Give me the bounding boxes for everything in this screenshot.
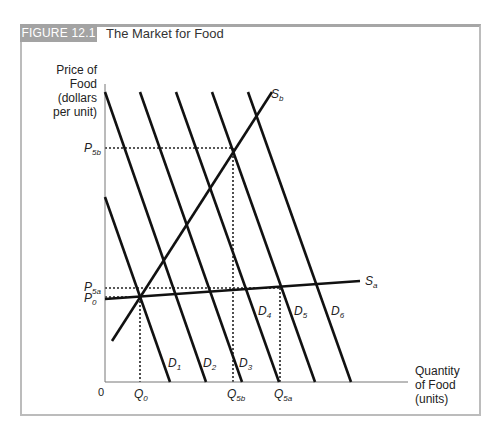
- label-D1: D1: [168, 356, 181, 372]
- y-axis-label-line: per unit): [53, 105, 97, 119]
- label-D2: D2: [203, 356, 217, 372]
- label-Q0: Q0: [134, 387, 148, 403]
- label-Q5a: Q5a: [274, 387, 293, 403]
- label-D3: D3: [239, 356, 253, 372]
- label-Sb: Sb: [271, 87, 284, 103]
- x-axis-label-line: Quantity: [415, 364, 460, 378]
- label-Q5b: Q5b: [227, 387, 246, 403]
- supply-curve-Sb: [112, 92, 272, 341]
- y-axis-label-line: Food: [70, 77, 97, 91]
- market-chart: D1D2D3D4D5D6SaSbP5bP5aP0Q0Q5bQ5a0Price o…: [0, 0, 497, 438]
- x-axis-label-line: of Food: [415, 378, 456, 392]
- label-Sa: Sa: [365, 274, 378, 290]
- label-D6: D6: [331, 304, 345, 320]
- origin-label: 0: [98, 386, 104, 398]
- y-axis-label-line: (dollars: [58, 91, 97, 105]
- x-axis-label-line: (units): [415, 392, 448, 406]
- label-D5: D5: [294, 304, 308, 320]
- demand-curve-D1: [105, 197, 170, 382]
- y-axis-label-line: Price of: [56, 63, 97, 77]
- label-D4: D4: [258, 304, 272, 320]
- label-P5b: P5b: [84, 141, 101, 157]
